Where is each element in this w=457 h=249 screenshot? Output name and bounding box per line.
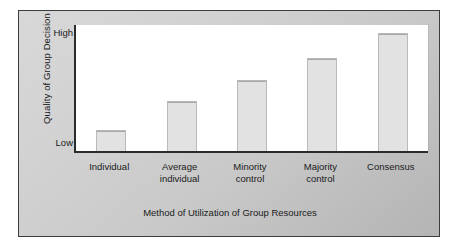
y-tick-label-low: Low [29,137,73,148]
bar [96,130,126,151]
bar [307,58,337,151]
y-axis-tick-labels: High Low [23,11,73,237]
y-tick-label-high: High [29,27,73,38]
x-tick-label-line: Consensus [348,161,434,173]
x-axis-category-labels: IndividualAverageindividualMinoritycontr… [74,161,428,201]
bar [237,80,267,151]
bar [167,101,197,151]
x-tick-label-line: control [277,173,363,185]
figure-frame: Quality of Group Decision High Low Indiv… [18,10,440,237]
bar [378,33,408,151]
plot-area [74,25,428,153]
x-axis-title: Method of Utilization of Group Resources [19,207,440,218]
x-tick-label: Consensus [348,161,434,173]
bar-series [76,25,428,151]
